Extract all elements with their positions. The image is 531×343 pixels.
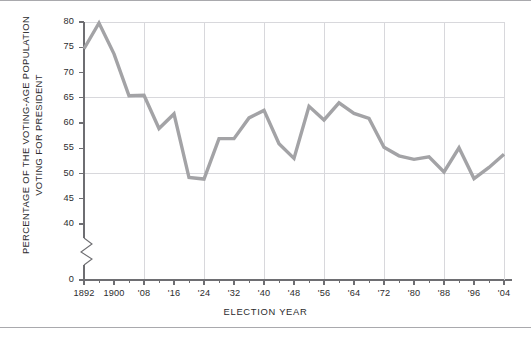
y-axis-break-symbol — [81, 238, 92, 265]
y-tick-label-65: 65 — [48, 92, 74, 102]
y-tick-label-70: 70 — [48, 67, 74, 77]
y-tick-label-50: 50 — [48, 168, 74, 178]
turnout-line — [84, 23, 504, 179]
chart-figure: 0404550556065707580 18921900'08'16'24'32… — [0, 0, 531, 343]
x-axis-title: ELECTION YEAR — [0, 306, 531, 317]
y-tick-label-80: 80 — [48, 16, 74, 26]
turnout-line-series — [84, 23, 504, 179]
gridlines — [84, 22, 504, 280]
y-tick-label-40: 40 — [48, 218, 74, 228]
x-tick-label-2004: '04 — [482, 288, 526, 298]
y-tick-label-75: 75 — [48, 41, 74, 51]
tick-marks — [79, 22, 504, 285]
y-tick-label-45: 45 — [48, 193, 74, 203]
y-tick-label-0: 0 — [48, 274, 74, 284]
y-tick-label-55: 55 — [48, 142, 74, 152]
y-tick-label-60: 60 — [48, 117, 74, 127]
